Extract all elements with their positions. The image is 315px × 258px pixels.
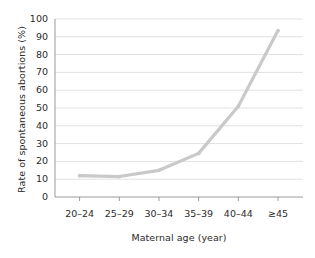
x-tick-label-4: 40–44 [224,208,253,219]
x-tick-label-3: 35–39 [184,208,213,219]
data-point-5 [276,29,280,33]
plot-area [0,0,315,258]
gridlines [55,19,303,179]
data-point-markers [78,29,280,179]
data-point-0 [78,174,82,178]
data-line [80,31,278,177]
data-point-1 [117,175,121,179]
data-point-3 [197,151,201,155]
x-tick-label-2: 30–34 [144,208,173,219]
data-point-2 [157,168,161,172]
x-axis-ticks [80,197,278,201]
data-point-4 [236,104,240,108]
chart-container: Rate of spontaneous abortions (%) 0 10 2… [0,0,315,258]
x-tick-label-5: ≥45 [268,208,288,219]
x-axis-title: Maternal age (year) [55,232,303,243]
x-tick-label-0: 20–24 [65,208,94,219]
x-tick-label-1: 25–29 [105,208,134,219]
